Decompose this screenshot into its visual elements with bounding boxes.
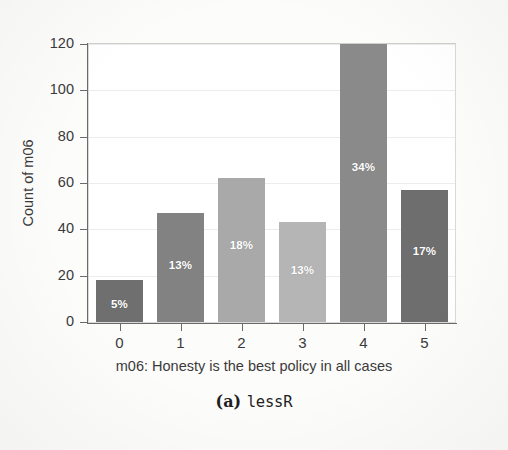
x-axis-tick-label: 0 (100, 334, 140, 351)
gridline (89, 137, 455, 138)
bar: 13% (279, 222, 327, 322)
bar-percent-label: 18% (218, 239, 266, 251)
y-axis-tick (80, 322, 87, 323)
y-axis-tick-label: 60 (0, 175, 74, 190)
gridline (89, 90, 455, 91)
x-axis-tick (120, 324, 121, 331)
gridline (89, 44, 455, 45)
x-axis-tick-label: 3 (283, 334, 323, 351)
bar-percent-label: 13% (157, 259, 205, 271)
y-axis-tick (80, 44, 87, 45)
y-axis-tick (80, 276, 87, 277)
y-axis-tick-label: 40 (0, 221, 74, 236)
y-axis-line (87, 43, 88, 324)
x-axis-tick-label: 1 (161, 334, 201, 351)
caption-prefix: (a) (216, 392, 242, 411)
bar: 5% (96, 280, 144, 322)
y-axis-tick-label: 100 (0, 82, 74, 97)
x-axis-title: m06: Honesty is the best policy in all c… (0, 358, 508, 374)
y-axis-tick (80, 229, 87, 230)
y-axis-title: Count of m06 (20, 93, 36, 273)
bar: 18% (218, 178, 266, 322)
bar-percent-label: 34% (340, 161, 388, 173)
y-axis-tick-label: 120 (0, 36, 74, 51)
bar-chart: 5%13%18%13%34%17% 020406080100120 012345… (0, 0, 508, 395)
y-axis-tick-label: 0 (0, 314, 74, 329)
y-axis-tick (80, 183, 87, 184)
y-axis-tick (80, 90, 87, 91)
x-axis-tick (364, 324, 365, 331)
caption-name: lessR (247, 393, 293, 411)
x-axis-tick-label: 4 (344, 334, 384, 351)
x-axis-tick (303, 324, 304, 331)
bar-percent-label: 13% (279, 264, 327, 276)
y-axis-tick-label: 20 (0, 268, 74, 283)
plot-area: 5%13%18%13%34%17% (89, 44, 455, 322)
bar-percent-label: 17% (401, 245, 449, 257)
figure-panel: 5%13%18%13%34%17% 020406080100120 012345… (0, 0, 508, 450)
x-axis-tick-label: 5 (405, 334, 445, 351)
bar-percent-label: 5% (96, 298, 144, 310)
y-axis-tick-label: 80 (0, 129, 74, 144)
x-axis-tick (181, 324, 182, 331)
bar: 13% (157, 213, 205, 322)
bar: 34% (340, 44, 388, 322)
x-axis-tick-label: 2 (222, 334, 262, 351)
figure-caption: (a) lessR (0, 392, 508, 411)
x-axis-tick (242, 324, 243, 331)
x-axis-tick (425, 324, 426, 331)
gridline (89, 183, 455, 184)
y-axis-tick (80, 137, 87, 138)
x-axis-line (87, 323, 457, 324)
bar: 17% (401, 190, 449, 322)
